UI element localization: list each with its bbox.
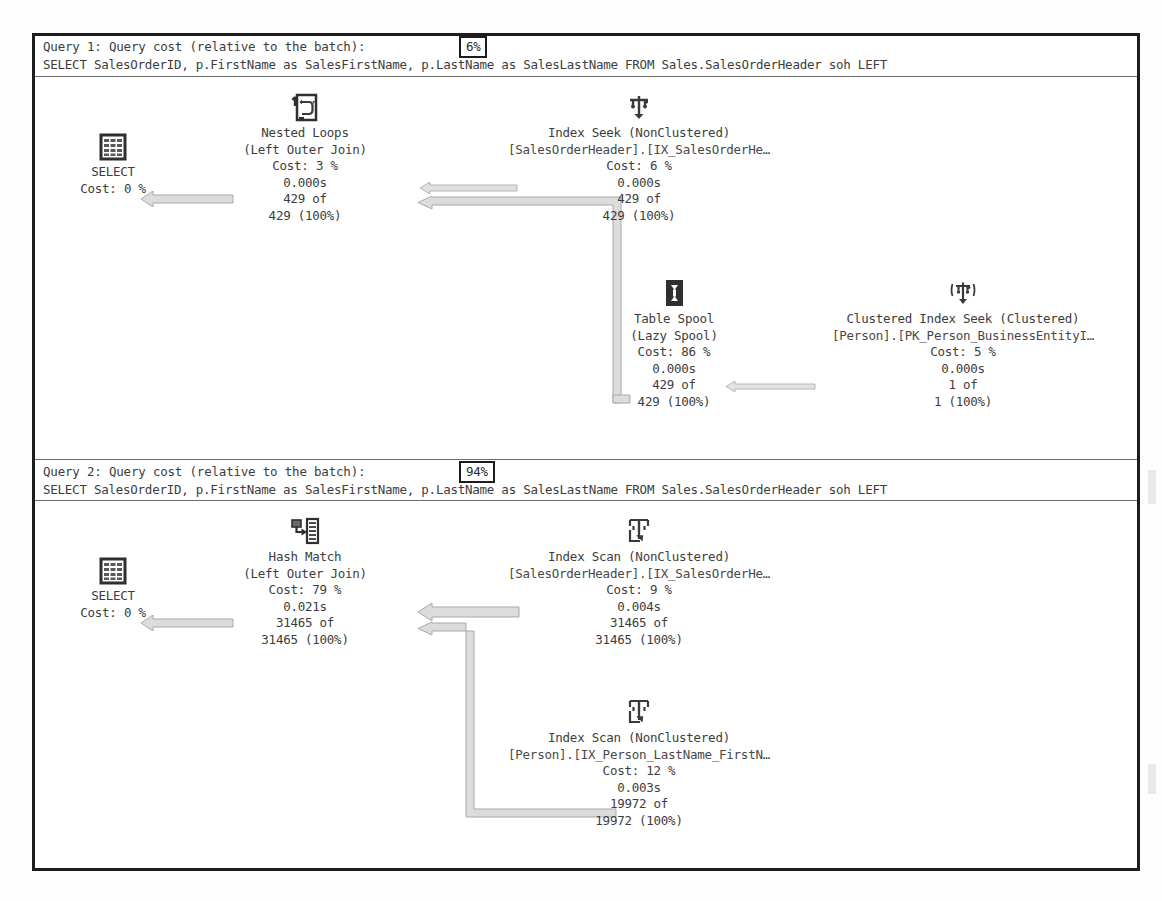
node-spool-type: (Lazy Spool) bbox=[581, 328, 767, 345]
node-cost: Cost: 79 % bbox=[206, 582, 404, 599]
query-2-header: Query 2: Query cost (relative to the bat… bbox=[35, 459, 1137, 501]
index-seek-icon bbox=[624, 93, 654, 123]
node-label: Hash Match bbox=[206, 549, 404, 566]
node-join-type: (Left Outer Join) bbox=[206, 142, 404, 159]
node-elapsed: 0.000s bbox=[481, 175, 797, 192]
node-cost: Cost: 3 % bbox=[206, 158, 404, 175]
node-cost: Cost: 5 % bbox=[799, 344, 1127, 361]
node-label: Nested Loops bbox=[206, 125, 404, 142]
node-elapsed: 0.000s bbox=[581, 361, 767, 378]
clustered-index-seek-icon bbox=[948, 279, 978, 309]
node-clustered-index-seek-1[interactable]: Clustered Index Seek (Clustered) [Person… bbox=[799, 279, 1127, 410]
node-label: Index Scan (NonClustered) bbox=[481, 730, 797, 747]
query-2-header-bottom-rule bbox=[35, 500, 1137, 501]
node-elapsed: 0.003s bbox=[481, 780, 797, 797]
node-rows-actual: 429 of bbox=[206, 191, 404, 208]
node-select-1[interactable]: SELECT Cost: 0 % bbox=[51, 132, 175, 197]
execution-plan-frame: Query 1: Query cost (relative to the bat… bbox=[32, 33, 1140, 871]
query-2-cost-badge: 94% bbox=[459, 461, 495, 483]
node-rows-actual: 31465 of bbox=[206, 615, 404, 632]
query-1-header-rule bbox=[35, 76, 1137, 77]
node-cost: Cost: 12 % bbox=[481, 763, 797, 780]
node-rows-estimated: 31465 (100%) bbox=[481, 632, 797, 649]
page-edge-mark bbox=[1148, 764, 1156, 794]
node-rows-estimated: 19972 (100%) bbox=[481, 813, 797, 830]
query-2-header-top-rule bbox=[35, 459, 1137, 460]
node-rows-actual: 429 of bbox=[481, 191, 797, 208]
query-1-sql-text: SELECT SalesOrderID, p.FirstName as Sale… bbox=[43, 57, 887, 72]
node-rows-estimated: 429 (100%) bbox=[481, 208, 797, 225]
node-elapsed: 0.000s bbox=[206, 175, 404, 192]
node-elapsed: 0.004s bbox=[481, 599, 797, 616]
node-cost: Cost: 6 % bbox=[481, 158, 797, 175]
node-object: [Person].[IX_Person_LastName_FirstN… bbox=[481, 747, 797, 764]
node-label: Index Scan (NonClustered) bbox=[481, 549, 797, 566]
query-1-header: Query 1: Query cost (relative to the bat… bbox=[35, 36, 1137, 77]
node-label: Table Spool bbox=[581, 311, 767, 328]
page-edge-mark bbox=[1148, 470, 1156, 504]
node-label: SELECT bbox=[51, 588, 175, 605]
node-nested-loops-1[interactable]: Nested Loops (Left Outer Join) Cost: 3 %… bbox=[206, 93, 404, 224]
index-scan-icon bbox=[624, 698, 654, 728]
node-rows-estimated: 31465 (100%) bbox=[206, 632, 404, 649]
node-elapsed: 0.000s bbox=[799, 361, 1127, 378]
query-2-title: Query 2: Query cost (relative to the bat… bbox=[43, 464, 365, 479]
index-scan-icon bbox=[624, 517, 654, 547]
select-result-icon bbox=[98, 132, 128, 162]
execution-plan-page: Query 1: Query cost (relative to the bat… bbox=[0, 0, 1162, 901]
nested-loops-icon bbox=[290, 93, 320, 123]
node-hash-match-2[interactable]: Hash Match (Left Outer Join) Cost: 79 % … bbox=[206, 517, 404, 648]
node-cost: Cost: 0 % bbox=[51, 181, 175, 198]
node-rows-actual: 1 of bbox=[799, 377, 1127, 394]
node-label: Index Seek (NonClustered) bbox=[481, 125, 797, 142]
node-table-spool-1[interactable]: Table Spool (Lazy Spool) Cost: 86 % 0.00… bbox=[581, 279, 767, 410]
node-rows-estimated: 429 (100%) bbox=[581, 394, 767, 411]
node-label: SELECT bbox=[51, 164, 175, 181]
table-spool-icon bbox=[659, 279, 689, 309]
node-object: [Person].[PK_Person_BusinessEntityI… bbox=[799, 328, 1127, 345]
node-select-2[interactable]: SELECT Cost: 0 % bbox=[51, 556, 175, 621]
node-join-type: (Left Outer Join) bbox=[206, 566, 404, 583]
query-2-sql-text: SELECT SalesOrderID, p.FirstName as Sale… bbox=[43, 482, 887, 497]
node-index-seek-1[interactable]: Index Seek (NonClustered) [SalesOrderHea… bbox=[481, 93, 797, 224]
node-index-scan-soh-2[interactable]: Index Scan (NonClustered) [SalesOrderHea… bbox=[481, 517, 797, 648]
node-index-scan-person-2[interactable]: Index Scan (NonClustered) [Person].[IX_P… bbox=[481, 698, 797, 829]
node-object: [SalesOrderHeader].[IX_SalesOrderHe… bbox=[481, 142, 797, 159]
node-label: Clustered Index Seek (Clustered) bbox=[799, 311, 1127, 328]
node-cost: Cost: 0 % bbox=[51, 605, 175, 622]
node-rows-estimated: 429 (100%) bbox=[206, 208, 404, 225]
node-rows-estimated: 1 (100%) bbox=[799, 394, 1127, 411]
hash-match-icon bbox=[290, 517, 320, 547]
node-cost: Cost: 9 % bbox=[481, 582, 797, 599]
node-rows-actual: 19972 of bbox=[481, 796, 797, 813]
node-elapsed: 0.021s bbox=[206, 599, 404, 616]
query-1-cost-badge: 6% bbox=[459, 36, 487, 58]
node-rows-actual: 429 of bbox=[581, 377, 767, 394]
select-result-icon bbox=[98, 556, 128, 586]
query-1-title: Query 1: Query cost (relative to the bat… bbox=[43, 39, 365, 54]
node-cost: Cost: 86 % bbox=[581, 344, 767, 361]
node-object: [SalesOrderHeader].[IX_SalesOrderHe… bbox=[481, 566, 797, 583]
node-rows-actual: 31465 of bbox=[481, 615, 797, 632]
